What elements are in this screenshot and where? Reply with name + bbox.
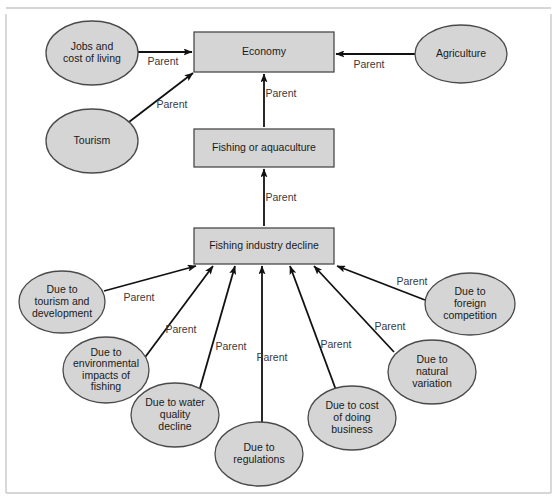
edge-label-agriculture-to-economy: Parent xyxy=(354,58,385,70)
edge-label-tourism-to-economy: Parent xyxy=(157,98,188,110)
edge-label-jobs-to-economy: Parent xyxy=(148,55,179,67)
edge-label-foreign-competition-to-decline: Parent xyxy=(397,275,428,287)
edge-cost-of-business-to-decline xyxy=(290,266,336,390)
node-fishing-industry-decline[interactable]: Fishing industry decline xyxy=(194,228,334,264)
node-label-economy: Economy xyxy=(242,45,287,57)
node-due-to-environmental-impacts-of-fishing[interactable]: Due toenvironmentalimpacts offishing xyxy=(63,337,149,403)
node-label-fishing-industry-decline: Fishing industry decline xyxy=(209,239,319,251)
edge-label-cost-of-business-to-decline: Parent xyxy=(321,338,352,350)
node-economy[interactable]: Economy xyxy=(194,32,334,72)
node-due-to-water-quality-decline[interactable]: Due to waterqualitydecline xyxy=(131,383,219,447)
node-fishing-or-aquaculture[interactable]: Fishing or aquaculture xyxy=(194,129,334,167)
edge-label-regulations-to-decline: Parent xyxy=(257,351,288,363)
edge-labels-layer: ParentParentParentParentParentParentPare… xyxy=(124,55,428,363)
edge-label-fishing-to-economy: Parent xyxy=(266,87,297,99)
node-label-due-to-natural-variation: Due tonaturalvariation xyxy=(412,353,452,388)
edge-environmental-to-decline xyxy=(143,266,213,360)
node-label-tourism: Tourism xyxy=(74,134,111,146)
edge-label-decline-to-fishing: Parent xyxy=(266,191,297,203)
edge-label-tourism-dev-to-decline: Parent xyxy=(124,291,155,303)
node-tourism[interactable]: Tourism xyxy=(46,109,138,173)
node-label-due-to-cost-of-doing-business: Due to costof doingbusiness xyxy=(325,399,378,434)
edge-label-environmental-to-decline: Parent xyxy=(166,323,197,335)
edge-label-water-quality-to-decline: Parent xyxy=(216,340,247,352)
edge-water-quality-to-decline xyxy=(200,266,235,388)
edge-label-natural-variation-to-decline: Parent xyxy=(375,320,406,332)
influence-diagram: ParentParentParentParentParentParentPare… xyxy=(0,0,557,501)
edge-tourism-dev-to-decline xyxy=(104,266,196,291)
node-due-to-foreign-competition[interactable]: Due toforeigncompetition xyxy=(425,273,515,335)
node-label-jobs-and-cost-of-living: Jobs andcost of living xyxy=(63,40,121,64)
node-label-agriculture: Agriculture xyxy=(436,47,486,59)
node-label-fishing-or-aquaculture: Fishing or aquaculture xyxy=(212,141,316,153)
node-agriculture[interactable]: Agriculture xyxy=(415,25,507,83)
node-due-to-tourism-and-development[interactable]: Due totourism anddevelopment xyxy=(19,271,105,333)
node-due-to-regulations[interactable]: Due toregulations xyxy=(215,422,303,486)
node-due-to-natural-variation[interactable]: Due tonaturalvariation xyxy=(388,340,476,404)
node-due-to-cost-of-doing-business[interactable]: Due to costof doingbusiness xyxy=(308,386,396,450)
figure-canvas: ParentParentParentParentParentParentPare… xyxy=(0,0,557,501)
node-jobs-and-cost-of-living[interactable]: Jobs andcost of living xyxy=(46,21,138,85)
